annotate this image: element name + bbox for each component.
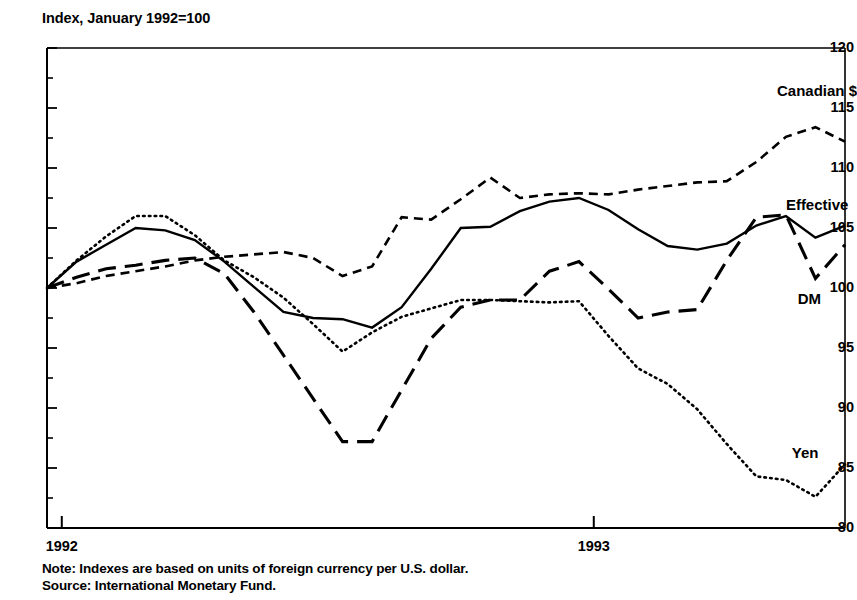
series-line-yen: [47, 216, 845, 497]
y-tick-label: 95: [812, 339, 854, 355]
y-tick-label: 110: [812, 159, 854, 175]
series-label-effective: Effective: [786, 196, 849, 213]
series-label-canadian: Canadian $: [777, 82, 857, 99]
y-tick-label: 115: [812, 99, 854, 115]
y-tick-label: 80: [812, 519, 854, 535]
series-label-yen: Yen: [792, 444, 819, 461]
series-line-canadian: [47, 127, 845, 288]
y-tick-label: 85: [812, 459, 854, 475]
series-label-dm: DM: [798, 290, 821, 307]
source-line: Source: International Monetary Fund.: [42, 577, 468, 594]
y-tick-label: 90: [812, 399, 854, 415]
y-tick-label: 105: [812, 219, 854, 235]
x-tick-label: 1993: [578, 538, 610, 554]
note-line: Note: Indexes are based on units of fore…: [42, 560, 468, 577]
chart-footnotes: Note: Indexes are based on units of fore…: [42, 560, 468, 594]
x-tick-label: 1992: [46, 538, 78, 554]
y-tick-label: 120: [812, 39, 854, 55]
chart-axis-title: Index, January 1992=100: [42, 10, 210, 26]
